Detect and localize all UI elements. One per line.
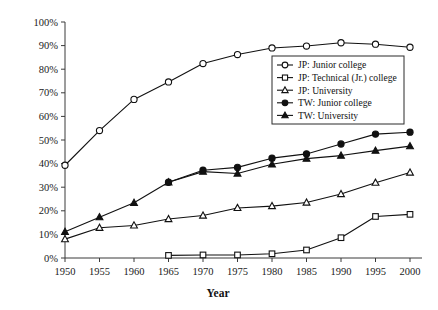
data-point-marker [372, 131, 378, 137]
line-chart: 0%10%20%30%40%50%60%70%80%90%100% 195019… [0, 0, 438, 310]
data-point-marker [282, 62, 288, 68]
y-axis: 0%10%20%30%40%50%60%70%80%90%100% [34, 17, 66, 264]
data-point-marker [166, 253, 172, 259]
data-point-marker [407, 143, 414, 149]
chart-series [62, 169, 414, 242]
x-axis-tick-label: 1980 [262, 266, 283, 277]
y-axis-tick-label: 100% [34, 17, 59, 28]
data-point-marker [235, 252, 241, 258]
y-axis-tick-label: 40% [39, 158, 59, 169]
data-point-marker [131, 199, 138, 205]
y-axis-tick-label: 70% [39, 87, 59, 98]
data-point-marker [200, 60, 206, 66]
x-axis-tick-label: 2000 [400, 266, 421, 277]
series-line [65, 146, 410, 232]
x-axis-tick-label: 1965 [158, 266, 179, 277]
y-axis-tick-label: 90% [39, 40, 59, 51]
legend-item-label: TW: University [298, 110, 358, 121]
data-point-marker [372, 41, 378, 47]
data-point-marker [407, 44, 413, 50]
data-point-marker [407, 129, 413, 135]
legend-item-label: JP: Technical (Jr.) college [298, 72, 397, 84]
data-point-marker [338, 40, 344, 46]
y-axis-tick-label: 10% [39, 229, 59, 240]
x-axis-tick-label: 1985 [296, 266, 317, 277]
chart-container: 0%10%20%30%40%50%60%70%80%90%100% 195019… [0, 0, 438, 310]
x-axis: 1950195519601965197019751980198519901995… [55, 258, 423, 277]
data-point-marker [200, 252, 206, 258]
y-axis-tick-label: 50% [39, 135, 59, 146]
data-point-marker [165, 79, 171, 85]
chart-series [165, 129, 413, 185]
data-point-marker [282, 75, 287, 80]
x-axis-tick-label: 1975 [227, 266, 248, 277]
data-point-marker [269, 45, 275, 51]
data-point-marker [96, 127, 102, 133]
x-axis-title: Year [207, 287, 230, 299]
data-point-marker [304, 247, 310, 253]
data-point-marker [131, 96, 137, 102]
data-point-marker [62, 162, 68, 168]
legend-item-label: JP: Junior college [298, 59, 366, 70]
data-point-marker [269, 251, 275, 257]
data-point-marker [303, 43, 309, 49]
data-point-marker [373, 214, 379, 220]
data-point-marker [407, 212, 413, 218]
data-point-marker [338, 235, 344, 241]
x-axis-tick-label: 1990 [331, 266, 352, 277]
y-axis-tick-label: 60% [39, 111, 59, 122]
x-axis-tick-label: 1960 [124, 266, 145, 277]
x-axis-tick-label: 1955 [89, 266, 110, 277]
data-point-marker [282, 100, 288, 106]
data-point-marker [234, 51, 240, 57]
y-axis-tick-label: 80% [39, 64, 59, 75]
series-line [169, 214, 411, 255]
data-point-marker [338, 141, 344, 147]
y-axis-tick-label: 20% [39, 205, 59, 216]
legend-item-label: JP: University [298, 85, 353, 96]
x-axis-tick-label: 1970 [193, 266, 214, 277]
y-axis-tick-label: 0% [44, 253, 58, 264]
legend-item-label: TW: Junior college [298, 97, 372, 108]
x-axis-tick-label: 1995 [365, 266, 386, 277]
chart-series [62, 143, 414, 235]
data-point-marker [407, 169, 414, 175]
legend: JP: Junior collegeJP: Technical (Jr.) co… [272, 56, 404, 124]
y-axis-tick-label: 30% [39, 182, 59, 193]
x-axis-tick-label: 1950 [55, 266, 76, 277]
